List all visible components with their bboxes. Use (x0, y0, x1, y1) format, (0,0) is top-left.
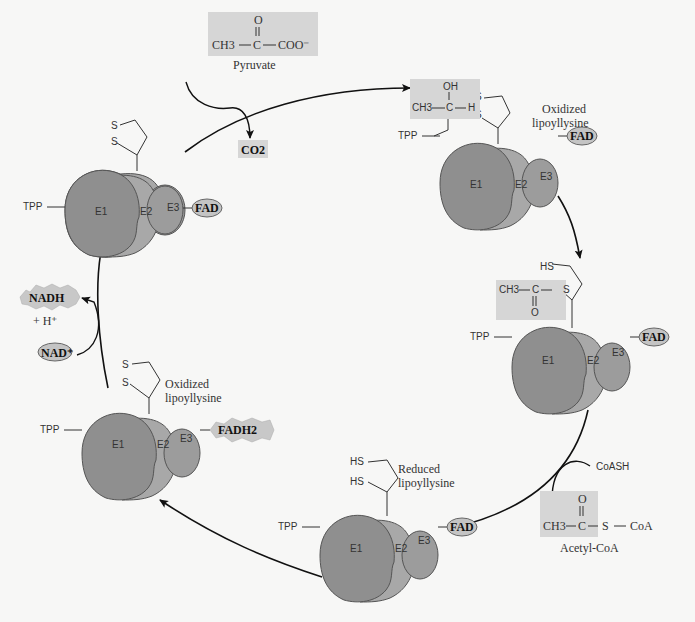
svg-text:FAD: FAD (570, 129, 594, 143)
svg-text:CH3: CH3 (499, 284, 519, 295)
svg-text:Oxidized: Oxidized (165, 377, 209, 391)
svg-text:O: O (531, 307, 539, 318)
svg-text:E2: E2 (587, 355, 600, 366)
acetyl-coa-structure: O CH3 C S CoA Acetyl-CoA (540, 491, 653, 555)
svg-text:E3: E3 (540, 171, 553, 182)
svg-text:HS: HS (350, 456, 364, 467)
svg-text:E1: E1 (470, 179, 483, 190)
svg-text:TPP: TPP (40, 424, 60, 435)
svg-text:CH3: CH3 (412, 102, 432, 113)
svg-text:E2: E2 (140, 206, 153, 217)
svg-text:CH3: CH3 (543, 519, 566, 533)
svg-text:CoA: CoA (630, 519, 653, 533)
svg-text:S: S (563, 284, 570, 295)
svg-text:TPP: TPP (398, 130, 418, 141)
cycle-arrow-5 (98, 246, 108, 388)
acetyl-thioester-box: CH3 C O (496, 280, 566, 320)
svg-text:FADH2: FADH2 (218, 423, 257, 437)
complex-top-left: E1 E2 E3 TPP FAD S S (23, 120, 222, 257)
nadh-arrow (77, 298, 99, 355)
nad-plus-oval: NAD⁺ (38, 343, 73, 361)
svg-text:S: S (122, 377, 129, 388)
coash-label: CoASH (596, 461, 629, 472)
svg-text:E1: E1 (542, 355, 555, 366)
svg-text:C: C (532, 284, 539, 295)
svg-text:E2: E2 (157, 439, 170, 450)
svg-text:COO⁻: COO⁻ (278, 38, 309, 52)
svg-text:TPP: TPP (23, 201, 43, 212)
svg-text:lipoyllysine: lipoyllysine (398, 476, 455, 490)
svg-text:E2: E2 (515, 179, 528, 190)
svg-text:C: C (446, 102, 453, 113)
cycle-arrow-4 (160, 500, 322, 577)
svg-text:O: O (578, 492, 587, 506)
svg-text:S: S (122, 359, 129, 370)
svg-text:Reduced: Reduced (398, 462, 440, 476)
svg-text:E3: E3 (167, 202, 180, 213)
svg-text:Oxidized: Oxidized (542, 102, 586, 116)
pyruvate-structure: O CH3 C COO⁻ Pyruvate (208, 12, 318, 72)
svg-text:HS: HS (540, 261, 554, 272)
svg-text:S: S (111, 136, 118, 147)
svg-text:E3: E3 (180, 433, 193, 444)
h-plus-label: + H⁺ (33, 314, 57, 328)
svg-text:S: S (602, 519, 609, 533)
pdh-cycle-diagram: O CH3 C COO⁻ Pyruvate CO2 NADH + H⁺ NAD⁺… (0, 0, 695, 622)
svg-text:FAD: FAD (642, 330, 666, 344)
cycle-arrow-1 (185, 88, 410, 152)
svg-text:CO2: CO2 (241, 143, 265, 157)
pyruvate-label: Pyruvate (233, 58, 276, 72)
svg-text:C: C (253, 38, 261, 52)
svg-text:lipoyllysine: lipoyllysine (532, 116, 589, 130)
svg-text:FAD: FAD (195, 201, 219, 215)
svg-text:lipoyllysine: lipoyllysine (165, 391, 222, 405)
hydroxyethyl-box: OH CH3 C H (410, 79, 480, 119)
acetyl-coa-label: Acetyl-CoA (560, 541, 619, 555)
svg-text:E1: E1 (95, 206, 108, 217)
svg-text:E3: E3 (612, 347, 625, 358)
svg-text:H: H (468, 102, 475, 113)
cycle-arrow-2 (558, 196, 580, 258)
svg-text:FAD: FAD (450, 520, 474, 534)
svg-text:NADH: NADH (29, 291, 65, 305)
svg-text:S: S (111, 120, 118, 131)
svg-text:E1: E1 (112, 439, 125, 450)
svg-text:O: O (254, 13, 263, 27)
svg-text:CH3: CH3 (212, 38, 235, 52)
svg-text:E2: E2 (395, 543, 408, 554)
svg-text:TPP: TPP (470, 331, 490, 342)
svg-text:C: C (578, 519, 586, 533)
svg-text:E1: E1 (350, 543, 363, 554)
co2-box: CO2 (238, 140, 268, 158)
svg-text:OH: OH (443, 81, 458, 92)
nadh-starburst: NADH (20, 284, 80, 310)
svg-text:NAD⁺: NAD⁺ (41, 346, 73, 360)
svg-text:E3: E3 (418, 535, 431, 546)
svg-text:TPP: TPP (278, 521, 298, 532)
complex-bottom-left: E1 E2 E3 TPP FADH2 S S (40, 359, 274, 500)
svg-text:HS: HS (350, 476, 364, 487)
co2-release-arrow (186, 82, 250, 138)
